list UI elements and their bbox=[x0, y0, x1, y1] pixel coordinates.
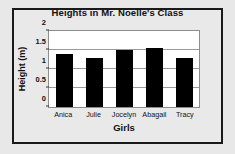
plot-area: 00.511.52 bbox=[48, 30, 200, 108]
x-tick-label: Anica bbox=[48, 110, 78, 119]
bar bbox=[146, 48, 163, 107]
chart-title: Heights in Mr. Noelle's Class bbox=[0, 7, 235, 18]
y-axis-label: Height (m) bbox=[17, 38, 27, 100]
y-tick-label: 1.5 bbox=[36, 37, 46, 46]
x-tick-label: Jocelyn bbox=[109, 110, 139, 119]
x-tick-label: Julie bbox=[79, 110, 109, 119]
bar bbox=[86, 58, 103, 107]
bar bbox=[56, 54, 73, 107]
x-axis-label: Girls bbox=[48, 122, 200, 133]
x-tick-label: Tracy bbox=[170, 110, 200, 119]
y-tick-label: 2 bbox=[42, 18, 46, 27]
bar bbox=[176, 58, 193, 107]
y-tick-label: 0.5 bbox=[36, 75, 46, 84]
x-tick-label: Abagail bbox=[139, 110, 169, 119]
chart-figure: Heights in Mr. Noelle's Class Height (m)… bbox=[0, 0, 235, 154]
bar-series bbox=[49, 31, 199, 107]
bar bbox=[116, 50, 133, 107]
x-axis-tick-labels: AnicaJulieJocelynAbagailTracy bbox=[48, 110, 200, 119]
y-tick-label: 1 bbox=[42, 56, 46, 65]
y-tick-label: 0 bbox=[42, 94, 46, 103]
